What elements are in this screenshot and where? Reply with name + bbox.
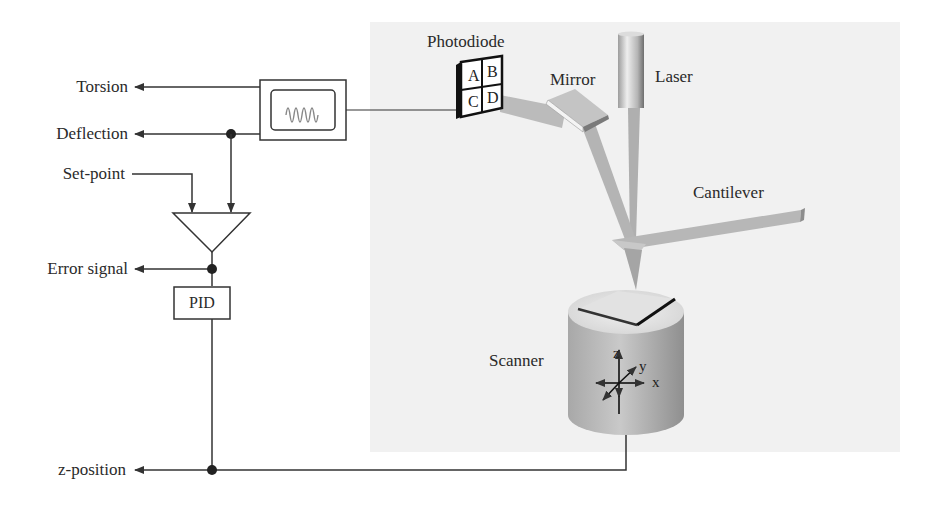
torsion-label: Torsion	[20, 77, 128, 97]
mirror-label: Mirror	[550, 70, 595, 90]
afm-diagram: Torsion Deflection Set-point Error signa…	[0, 0, 928, 507]
scanner-icon	[568, 290, 684, 435]
comparator-triangle	[173, 213, 250, 252]
photodiode-label: Photodiode	[427, 32, 504, 52]
diagram-graphics	[0, 0, 928, 507]
axis-y-label: y	[639, 358, 647, 374]
setpoint-line	[132, 174, 192, 212]
error-signal-line	[135, 252, 217, 286]
laser-label: Laser	[655, 67, 693, 87]
axis-x-label: x	[652, 374, 660, 390]
cantilever-icon	[612, 208, 805, 290]
cantilever-label: Cantilever	[693, 183, 764, 203]
setpoint-label: Set-point	[20, 164, 125, 184]
oscilloscope-icon	[260, 80, 461, 140]
z-position-line	[135, 319, 626, 475]
scanner-label: Scanner	[489, 351, 544, 371]
deflection-label: Deflection	[20, 124, 128, 144]
quadrant-a: A	[468, 67, 480, 85]
z-position-label: z-position	[10, 460, 126, 480]
deflection-line	[135, 129, 260, 212]
quadrant-b: B	[487, 63, 498, 81]
pid-label: PID	[174, 287, 230, 319]
axis-z-label: z	[613, 345, 620, 361]
quadrant-d: D	[487, 89, 499, 107]
error-signal-label: Error signal	[10, 259, 128, 279]
quadrant-c: C	[468, 93, 479, 111]
laser-icon	[618, 32, 644, 109]
